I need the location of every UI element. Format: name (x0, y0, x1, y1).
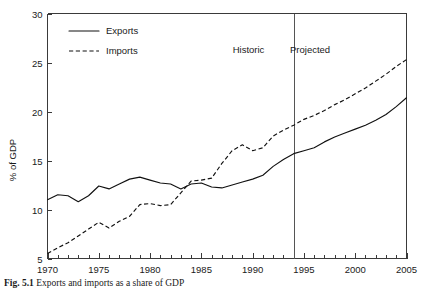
chart-series (48, 60, 407, 254)
x-tick-label: 1970 (37, 264, 58, 275)
series-line-exports (48, 98, 407, 202)
y-tick-label: 20 (32, 107, 43, 118)
x-axis-ticks: 19701975198019851990199520002005 (37, 253, 417, 275)
x-tick-label: 1995 (293, 264, 314, 275)
y-tick-label: 30 (32, 9, 43, 20)
figure-container: 51015202530 1970197519801985199019952000… (0, 0, 428, 291)
line-chart: 51015202530 1970197519801985199019952000… (0, 0, 428, 291)
figure-caption-label: Fig. 5.1 (4, 278, 34, 288)
x-tick-label: 1990 (242, 264, 263, 275)
y-tick-label: 15 (32, 156, 43, 167)
x-tick-label: 2000 (345, 264, 366, 275)
y-tick-label: 25 (32, 58, 43, 69)
projected-label: Projected (290, 44, 330, 55)
x-tick-label: 1985 (191, 264, 212, 275)
y-tick-label: 10 (32, 205, 43, 216)
x-tick-label: 1975 (88, 264, 109, 275)
historic-label: Historic (233, 44, 265, 55)
series-line-imports (48, 60, 407, 254)
chart-annotations: HistoricProjected (233, 14, 330, 259)
x-tick-label: 2005 (396, 264, 417, 275)
figure-caption-text: Exports and imports as a share of GDP (36, 278, 184, 288)
legend-label-imports: Imports (106, 45, 138, 56)
figure-caption: Fig. 5.1 Exports and imports as a share … (4, 277, 424, 289)
legend-label-exports: Exports (106, 25, 138, 36)
plot-frame (48, 14, 407, 259)
chart-legend: ExportsImports (69, 25, 138, 56)
y-axis-ticks: 51015202530 (32, 9, 52, 265)
y-axis-title: % of GDP (7, 139, 18, 181)
x-tick-label: 1980 (140, 264, 161, 275)
